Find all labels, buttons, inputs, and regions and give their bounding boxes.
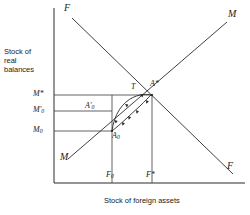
curve-label-mm-lower-left: M [60,152,68,162]
x-axis-title: Stock of foreign assets [104,197,180,206]
arrowhead-lower-3 [146,100,149,104]
point-marker-a-star [151,94,153,96]
y-tick-label-m-zero-prime: M'0 [33,106,44,115]
y-tick-m-zero-prime-sub: 0 [41,108,44,114]
y-tick-label-m-zero: M0 [33,126,43,135]
y-tick-m-zero-prime-base: M [33,105,40,114]
arrowhead-lower-2 [136,110,139,114]
y-tick-m-zero-base: M [33,125,40,134]
arrowhead-lower-1 [122,122,125,126]
x-tick-label-f-star: F* [146,171,155,179]
x-tick-label-f-zero: F0 [106,171,114,180]
point-label-a-zero-prime: A'0 [85,102,94,111]
y-axis-title-line-3: balances [4,66,50,75]
ff-schedule-line [72,18,233,174]
x-tick-f-star-mark: * [151,170,155,179]
arrowhead-mm-1 [128,116,131,120]
point-label-a-zero: A0 [112,132,120,141]
point-a-star-mark: * [155,79,159,88]
curve-label-mm-upper-right: M [228,9,236,19]
y-axis-title: Stock of real balances [4,48,50,75]
point-label-t: T [131,83,135,91]
mm-schedule-line [68,22,227,159]
arrowhead-upper-1 [115,120,118,124]
y-tick-label-m-star: M* [33,90,43,98]
y-tick-m-zero-sub: 0 [40,128,43,134]
x-tick-f-zero-sub: 0 [111,173,114,179]
point-a-zero-prime-sub: 0 [92,104,95,110]
point-label-a-star: A* [150,80,159,88]
y-tick-m-star-base: M [33,89,40,98]
economics-diagram: Stock of real balances Stock of foreign … [0,0,250,215]
curve-label-ff-lower-right: F [227,161,233,171]
curve-label-ff-upper-left: F [64,3,70,13]
y-tick-m-star-mark: * [40,89,44,98]
point-a-zero-sub: 0 [117,134,120,140]
adjustment-path-upper [112,94,151,131]
